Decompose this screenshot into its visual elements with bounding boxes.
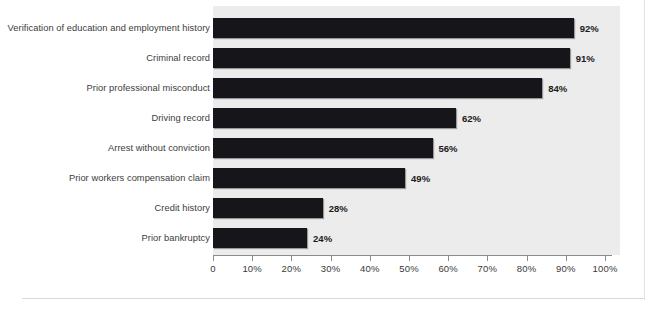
bar (213, 18, 574, 38)
bar-row: Prior workers compensation claim49% (0, 168, 656, 188)
category-label: Driving record (151, 113, 210, 123)
x-axis-tick-label: 40% (360, 263, 380, 274)
x-axis-tick-label: 60% (438, 263, 458, 274)
x-axis-tick-label: 30% (321, 263, 341, 274)
x-axis-tick (409, 255, 410, 261)
x-axis-tick-label: 0 (210, 263, 215, 274)
x-axis-tick (487, 255, 488, 261)
bar-row: Verification of education and employment… (0, 18, 656, 38)
bar-row: Driving record62% (0, 108, 656, 128)
bar (213, 108, 456, 128)
bar-value-label: 62% (462, 113, 481, 124)
bar (213, 78, 542, 98)
bar-value-label: 28% (329, 203, 348, 214)
x-axis-tick-label: 100% (592, 263, 617, 274)
x-axis-tick (448, 255, 449, 261)
category-label: Arrest without conviction (108, 143, 210, 153)
bar (213, 228, 307, 248)
bar (213, 48, 570, 68)
x-axis-tick (331, 255, 332, 261)
bar-row: Prior bankruptcy24% (0, 228, 656, 248)
bar-value-label: 49% (411, 173, 430, 184)
x-axis-tick (252, 255, 253, 261)
bar (213, 198, 323, 218)
page-border-right (644, 0, 645, 300)
x-axis-tick-label: 70% (478, 263, 498, 274)
x-axis-tick (370, 255, 371, 261)
bar (213, 168, 405, 188)
bar-value-label: 91% (576, 53, 595, 64)
bar-row: Credit history28% (0, 198, 656, 218)
category-label: Prior bankruptcy (142, 233, 211, 243)
bar-value-label: 92% (580, 23, 599, 34)
bar-row: Criminal record91% (0, 48, 656, 68)
page-border-bottom (22, 298, 644, 299)
x-axis-tick (291, 255, 292, 261)
category-label: Prior professional misconduct (87, 83, 210, 93)
x-axis-tick-label: 80% (517, 263, 537, 274)
bar (213, 138, 433, 158)
bar-row: Prior professional misconduct84% (0, 78, 656, 98)
bar-value-label: 24% (313, 233, 332, 244)
x-axis-tick (566, 255, 567, 261)
page-canvas: Verification of education and employment… (0, 0, 656, 315)
category-label: Criminal record (146, 53, 210, 63)
x-axis-tick (605, 255, 606, 261)
bar-chart: Verification of education and employment… (0, 0, 656, 315)
x-axis-tick-label: 10% (242, 263, 262, 274)
x-axis-tick (213, 255, 214, 261)
category-label: Prior workers compensation claim (69, 173, 210, 183)
bar-row: Arrest without conviction56% (0, 138, 656, 158)
x-axis-tick (527, 255, 528, 261)
bar-value-label: 84% (548, 83, 567, 94)
x-axis-line (213, 255, 612, 256)
category-label: Credit history (155, 203, 210, 213)
x-axis-tick-label: 50% (399, 263, 419, 274)
x-axis-tick-label: 90% (556, 263, 576, 274)
category-label: Verification of education and employment… (8, 23, 210, 33)
x-axis-tick-label: 20% (282, 263, 302, 274)
bar-value-label: 56% (439, 143, 458, 154)
